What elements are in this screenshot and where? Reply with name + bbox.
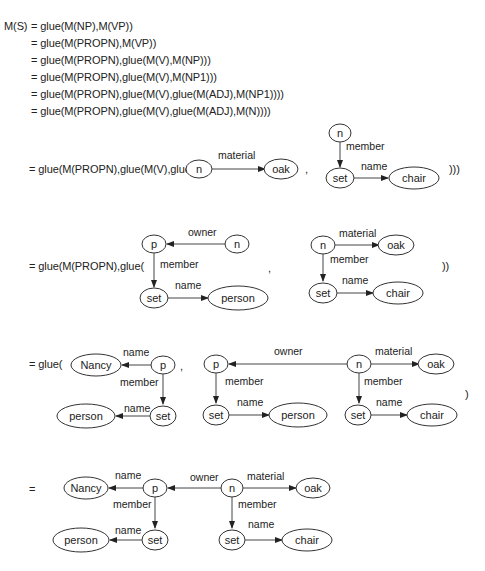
edge-member-label: member <box>225 375 264 387</box>
step2-graph-a: p owner n member set name person <box>140 226 268 310</box>
node-chair-label: chair <box>386 287 410 299</box>
step1-graph-b: n member set name chair <box>326 124 439 189</box>
edge-material-label: material <box>218 149 255 161</box>
edge-name-label: name <box>124 402 150 414</box>
node-n-label: n <box>234 238 240 250</box>
node-n-label: n <box>337 127 343 139</box>
node-n-label: n <box>229 482 235 494</box>
node-n-label: n <box>320 239 326 251</box>
step2-graph-b: n material oak member set name chair <box>309 227 423 304</box>
edge-name-label: name <box>237 396 263 408</box>
node-chair-label: chair <box>420 409 444 421</box>
step1-graph-a: n material oak <box>186 149 298 179</box>
node-oak-label: oak <box>304 482 322 494</box>
edge-name-label: name <box>115 524 141 536</box>
node-set-label: set <box>147 292 162 304</box>
step3-graph-b: p owner n material oak member set name p… <box>203 345 457 427</box>
node-p-label: p <box>160 359 166 371</box>
edge-member-label: member <box>364 375 403 387</box>
node-set-label: set <box>351 409 366 421</box>
node-oak-label: oak <box>387 239 405 251</box>
edge-name-label: name <box>175 279 201 291</box>
node-chair-label: chair <box>295 534 319 546</box>
node-set-label: set <box>333 172 348 184</box>
node-chair-label: chair <box>402 172 426 184</box>
edge-owner-label: owner <box>190 471 219 483</box>
edge-member-label: member <box>346 140 385 152</box>
edge-member-label: member <box>160 258 199 270</box>
semantic-graph-diagram: n material oak n member set name chair p… <box>0 0 485 571</box>
node-oak-label: oak <box>427 358 445 370</box>
node-set-label: set <box>148 534 163 546</box>
final-graph: Nancy name p owner n material oak member… <box>53 469 332 552</box>
node-person-label: person <box>281 409 315 421</box>
edge-name-label: name <box>342 274 368 286</box>
edge-member-label: member <box>120 376 159 388</box>
node-person-label: person <box>69 410 103 422</box>
edge-owner-label: owner <box>188 226 217 238</box>
node-person-label: person <box>64 534 98 546</box>
node-p-label: p <box>151 238 157 250</box>
node-set-label: set <box>316 287 331 299</box>
step3-graph-a: Nancy name p member set name person <box>57 346 176 428</box>
node-p-label: p <box>213 358 219 370</box>
node-oak-label: oak <box>272 163 290 175</box>
edge-name-label: name <box>115 469 141 481</box>
node-set-label: set <box>225 534 240 546</box>
node-nancy-label: Nancy <box>80 359 112 371</box>
edge-member-label: member <box>113 498 152 510</box>
node-n-label: n <box>356 358 362 370</box>
node-n-label: n <box>196 163 202 175</box>
edge-material-label: material <box>375 345 412 357</box>
node-set-label: set <box>156 410 171 422</box>
edge-owner-label: owner <box>274 345 303 357</box>
edge-member-label: member <box>238 498 277 510</box>
node-person-label: person <box>221 292 255 304</box>
node-set-label: set <box>209 409 224 421</box>
edge-material-label: material <box>247 470 284 482</box>
edge-name-label: name <box>248 518 274 530</box>
edge-name-label: name <box>361 160 387 172</box>
node-nancy-label: Nancy <box>70 482 102 494</box>
node-p-label: p <box>152 482 158 494</box>
edge-name-label: name <box>123 346 149 358</box>
edge-member-label: member <box>330 253 369 265</box>
edge-name-label: name <box>376 396 402 408</box>
edge-material-label: material <box>339 227 376 239</box>
